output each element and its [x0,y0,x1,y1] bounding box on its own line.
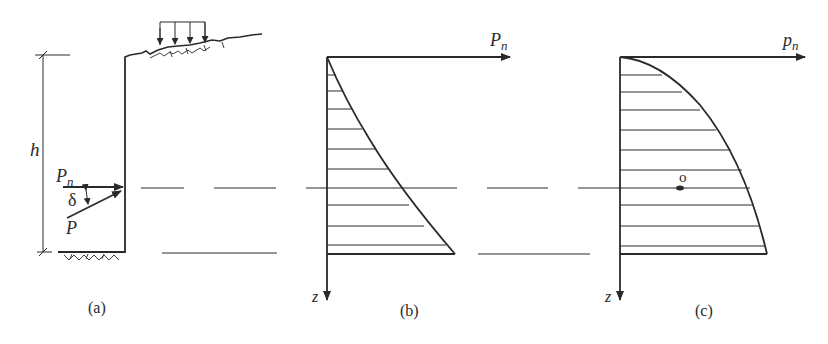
axis-b-x-label: Pn [489,30,508,53]
caption-c: (c) [695,302,713,320]
centroid-label: o [679,169,687,185]
pressure-curve-c [620,57,767,254]
normal-force-label: Pn [55,166,74,189]
surcharge-load [160,22,205,45]
hatch-c [620,75,765,246]
caption-a: (a) [88,299,106,317]
panel-b [327,57,510,300]
axis-c-x-label: pn [781,30,799,53]
centroid-point [676,186,684,191]
axis-b-z-label: z [311,288,319,305]
hatch-b [327,75,446,245]
earth-pressure-diagram: h Pn δ P (a) Pn z (b) [0,0,828,344]
height-label: h [30,139,40,160]
axis-c-z-label: z [604,288,612,305]
angle-label: δ [68,190,76,210]
pressure-curve-b [327,57,455,254]
panel-c [620,57,805,300]
caption-b: (b) [400,302,419,320]
angle-indicator [86,190,88,204]
resultant-label: P [65,218,77,238]
base-ground-hatch [64,254,119,260]
backfill-surface [130,34,262,55]
backfill-hatch [150,42,224,58]
